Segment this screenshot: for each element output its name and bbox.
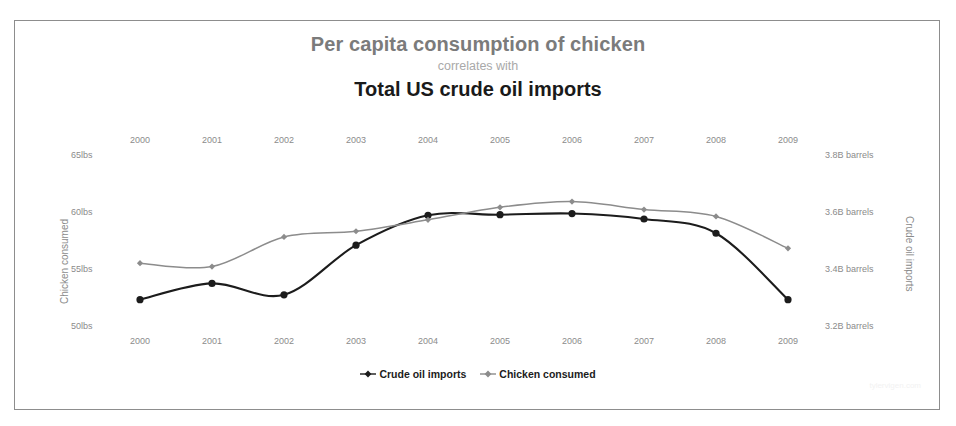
y-tick-right-0: 3.8B barrels [825, 150, 874, 160]
x-tick-bottom-6: 2006 [549, 336, 595, 346]
x-tick-top-4: 2004 [405, 135, 451, 145]
data-point-2009 [784, 296, 791, 303]
data-point-2008 [712, 230, 719, 237]
data-point-2000 [137, 260, 143, 266]
data-point-2007 [641, 206, 647, 212]
chart-legend: Crude oil importsChicken consumed [15, 366, 941, 380]
y-axis-right-title: Crude oil imports [904, 216, 915, 292]
y-tick-right-2: 3.4B barrels [825, 264, 874, 274]
y-axis-left-title: Chicken consumed [59, 219, 70, 304]
x-tick-top-3: 2003 [333, 135, 379, 145]
series-chicken-consumed [137, 199, 791, 270]
data-point-2002 [281, 234, 287, 240]
data-point-2005 [497, 204, 503, 210]
x-tick-top-9: 2009 [765, 135, 811, 145]
data-point-2001 [209, 263, 215, 269]
y-tick-left-1: 60lbs [71, 207, 93, 217]
x-tick-bottom-0: 2000 [117, 336, 163, 346]
chart-frame: Per capita consumption of chicken correl… [14, 20, 940, 410]
watermark: tylervigen.com [869, 381, 921, 390]
x-tick-top-6: 2006 [549, 135, 595, 145]
x-tick-bottom-7: 2007 [621, 336, 667, 346]
series-crude-oil-imports [136, 210, 791, 303]
legend-label: Crude oil imports [379, 368, 466, 380]
data-point-2006 [569, 199, 575, 205]
data-point-2003 [352, 242, 359, 249]
x-tick-top-2: 2002 [261, 135, 307, 145]
y-tick-left-0: 65lbs [71, 150, 93, 160]
legend-label: Chicken consumed [499, 368, 595, 380]
data-point-2006 [568, 210, 575, 217]
x-tick-bottom-9: 2009 [765, 336, 811, 346]
data-point-2000 [136, 296, 143, 303]
data-point-2009 [785, 245, 791, 251]
data-point-2002 [280, 291, 287, 298]
legend-item-crude-oil-imports[interactable]: Crude oil imports [360, 367, 466, 380]
data-point-2003 [353, 228, 359, 234]
diamond-marker-icon [360, 369, 376, 379]
x-tick-bottom-4: 2004 [405, 336, 451, 346]
x-tick-bottom-8: 2008 [693, 336, 739, 346]
legend-item-chicken-consumed[interactable]: Chicken consumed [480, 367, 595, 380]
x-tick-bottom-2: 2002 [261, 336, 307, 346]
x-tick-bottom-3: 2003 [333, 336, 379, 346]
x-tick-top-7: 2007 [621, 135, 667, 145]
x-tick-bottom-5: 2005 [477, 336, 523, 346]
y-tick-right-3: 3.2B barrels [825, 321, 874, 331]
y-tick-left-2: 55lbs [71, 264, 93, 274]
x-tick-top-8: 2008 [693, 135, 739, 145]
x-tick-bottom-1: 2001 [189, 336, 235, 346]
series-line [140, 202, 788, 268]
y-tick-right-1: 3.6B barrels [825, 207, 874, 217]
y-tick-left-3: 50lbs [71, 321, 93, 331]
data-point-2007 [640, 215, 647, 222]
data-point-2008 [713, 213, 719, 219]
series-line [140, 213, 788, 300]
diamond-marker-light-icon [480, 369, 496, 379]
x-tick-top-0: 2000 [117, 135, 163, 145]
data-point-2005 [496, 211, 503, 218]
plot-area [15, 21, 941, 411]
series-lines [15, 21, 941, 411]
x-tick-top-5: 2005 [477, 135, 523, 145]
x-tick-top-1: 2001 [189, 135, 235, 145]
data-point-2001 [208, 280, 215, 287]
